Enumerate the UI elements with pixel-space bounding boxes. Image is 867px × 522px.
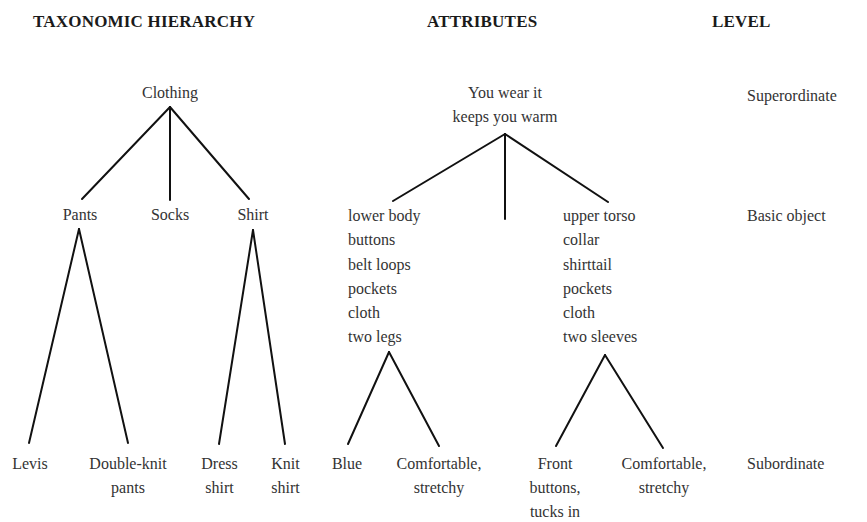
node-pants: Pants <box>45 203 115 227</box>
header-attributes: ATTRIBUTES <box>427 12 537 32</box>
edge-attr-lower <box>393 134 505 201</box>
attr-pants-comfortable-stretchy: Comfortable, stretchy <box>384 452 494 500</box>
node-shirt: Shirt <box>218 203 288 227</box>
node-clothing: Clothing <box>120 81 220 105</box>
edge-legs-comfortable <box>389 352 439 446</box>
attr-blue: Blue <box>322 452 372 476</box>
edge-sleeves-comfortable <box>605 355 663 448</box>
level-superordinate: Superordinate <box>747 84 837 108</box>
edge-shirt-dress <box>219 230 253 444</box>
edge-shirt-knit <box>253 230 285 444</box>
node-double-knit-pants: Double-knit pants <box>73 452 183 500</box>
edge-legs-blue <box>348 352 389 444</box>
edge-sleeves-front <box>556 355 605 446</box>
attr-superordinate: You wear it keeps you warm <box>425 81 585 129</box>
node-levis: Levis <box>0 452 60 476</box>
header-level: LEVEL <box>712 12 771 32</box>
edge-pants-doubleknit <box>79 229 128 443</box>
node-socks: Socks <box>135 203 205 227</box>
edge-attr-upper <box>505 134 608 202</box>
attr-list-shirt: upper torso collar shirttail pockets clo… <box>563 204 637 350</box>
attr-list-pants: lower body buttons belt loops pockets cl… <box>348 204 420 350</box>
edge-clothing-shirt <box>170 107 249 199</box>
header-taxonomic-hierarchy: TAXONOMIC HIERARCHY <box>33 12 255 32</box>
level-subordinate: Subordinate <box>747 452 824 476</box>
edge-pants-levis <box>29 229 79 443</box>
node-dress-shirt: Dress shirt <box>192 452 247 500</box>
level-basic-object: Basic object <box>747 204 826 228</box>
node-knit-shirt: Knit shirt <box>258 452 313 500</box>
edge-clothing-pants <box>82 107 170 199</box>
tree-lines <box>0 0 867 522</box>
attr-front-buttons-tucks-in: Front buttons, tucks in <box>516 452 594 522</box>
attr-shirt-comfortable-stretchy: Comfortable, stretchy <box>609 452 719 500</box>
